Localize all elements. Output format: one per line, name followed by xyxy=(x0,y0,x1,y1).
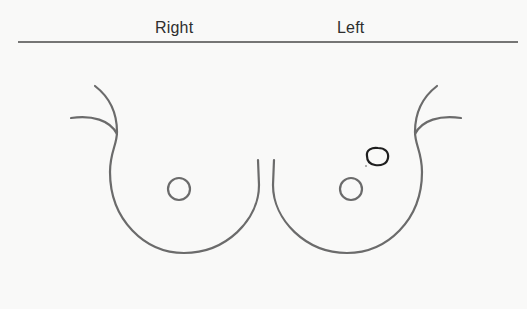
left-nipple xyxy=(340,178,362,200)
right-breast-contour xyxy=(110,132,259,253)
right-axilla-lower-curve xyxy=(71,117,117,134)
anatomy-drawing xyxy=(0,0,527,309)
right-breast-outline xyxy=(71,86,259,253)
left-axilla-lower-curve xyxy=(415,117,461,134)
left-axilla-upper-curve xyxy=(415,86,437,132)
breast-exam-diagram: Right Left xyxy=(0,0,527,309)
right-nipple xyxy=(168,178,190,200)
lesion-dot-artifact xyxy=(365,165,367,167)
marked-lesion xyxy=(367,148,388,165)
left-breast-outline xyxy=(273,86,461,253)
left-breast-contour xyxy=(273,132,422,253)
right-axilla-upper-curve xyxy=(95,86,117,132)
